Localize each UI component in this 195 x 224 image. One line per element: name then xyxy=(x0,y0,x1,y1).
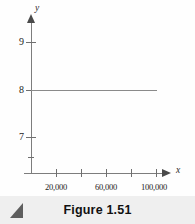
y-tick-9 xyxy=(26,42,36,43)
x-tick-60000 xyxy=(106,169,107,177)
x-tick-label-60000: 60,000 xyxy=(83,182,129,192)
x-tick-80000 xyxy=(131,169,132,177)
x-axis-arrow-icon xyxy=(162,169,171,177)
y-tick-label-9: 9 xyxy=(12,36,24,47)
figure-container: y x 9 8 7 20,000 60,000 100,000 Figure 1… xyxy=(0,0,195,224)
y-tick-7 xyxy=(26,137,36,138)
series-line-y-equals-8 xyxy=(31,90,157,91)
x-axis-label: x xyxy=(176,165,180,175)
x-tick-100000 xyxy=(156,169,157,177)
y-axis-arrow-icon xyxy=(27,14,35,23)
plot-area: y x 9 8 7 20,000 60,000 100,000 xyxy=(0,0,195,196)
y-axis-break-mark xyxy=(28,157,34,158)
y-axis-label: y xyxy=(35,3,39,13)
x-tick-label-100000: 100,000 xyxy=(131,182,177,192)
figure-caption: Figure 1.51 xyxy=(0,203,195,217)
y-tick-label-8: 8 xyxy=(12,84,24,95)
y-axis-line xyxy=(31,22,32,174)
x-tick-20000 xyxy=(56,169,57,177)
x-axis-line xyxy=(24,173,163,174)
x-tick-40000 xyxy=(81,169,82,177)
y-tick-label-7: 7 xyxy=(12,131,24,142)
x-tick-label-20000: 20,000 xyxy=(33,182,79,192)
